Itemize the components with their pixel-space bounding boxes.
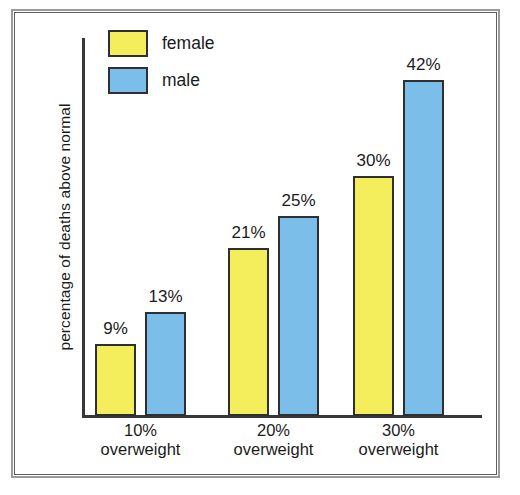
bar-male-1 [278,216,319,416]
bar-value-label-male-2: 42% [391,55,456,75]
bar-female-2 [353,176,394,416]
bar-value-label-female-1: 21% [216,223,281,243]
x-tick-label-0: 10%overweight [71,421,211,459]
plot-area: percentage of deaths above normal female… [0,0,520,495]
bar-female-1 [228,248,269,416]
x-tick-line: overweight [71,440,211,459]
bar-female-0 [95,344,136,416]
x-tick-line: 20% [204,421,344,440]
bar-value-label-female-0: 9% [83,319,148,339]
x-tick-label-2: 30%overweight [329,421,469,459]
x-tick-line: overweight [329,440,469,459]
bar-value-label-female-2: 30% [341,151,406,171]
x-tick-line: 10% [71,421,211,440]
bar-male-2 [403,80,444,416]
bars-layer: 9%13%21%25%30%42% [0,0,520,416]
x-tick-label-1: 20%overweight [204,421,344,459]
chart-figure: percentage of deaths above normal female… [0,0,520,495]
x-tick-line: 30% [329,421,469,440]
bar-value-label-male-0: 13% [133,287,198,307]
x-tick-line: overweight [204,440,344,459]
bar-male-0 [145,312,186,416]
bar-value-label-male-1: 25% [266,191,331,211]
